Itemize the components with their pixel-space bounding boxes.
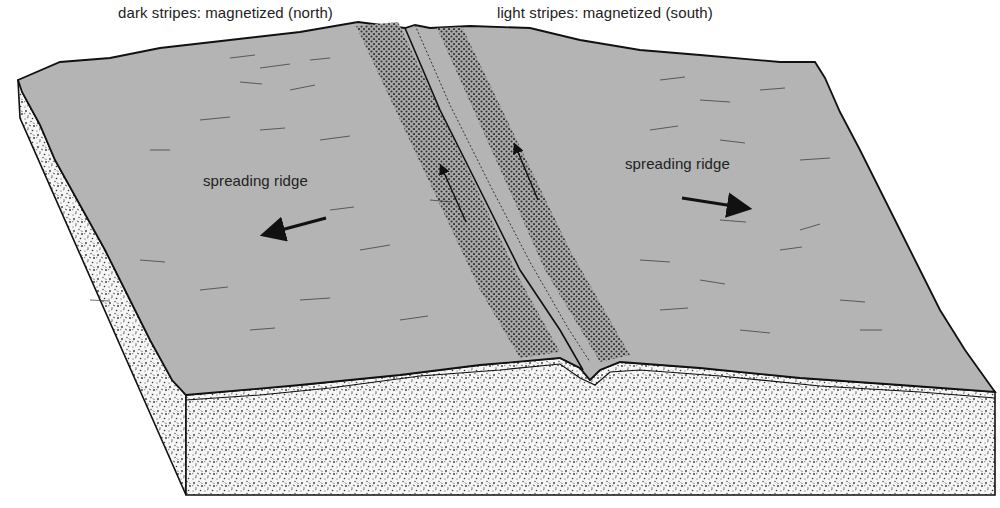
label-spreading-ridge-right: spreading ridge — [625, 155, 730, 172]
legend-dark-stripes: dark stripes: magnetized (north) — [118, 4, 333, 21]
label-spreading-ridge-left: spreading ridge — [203, 172, 308, 189]
seafloor-spreading-diagram — [0, 0, 1000, 508]
legend-light-stripes: light stripes: magnetized (south) — [497, 4, 713, 21]
seafloor-surface — [18, 22, 995, 395]
